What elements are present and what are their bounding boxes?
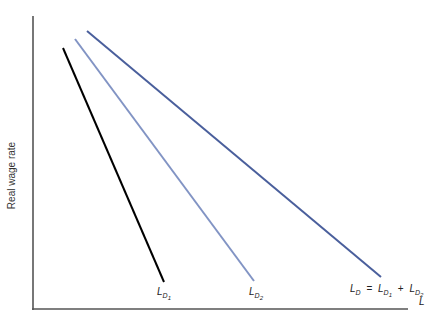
line-ld2 (75, 39, 254, 281)
chart-canvas (0, 0, 439, 328)
line-ld-sum (87, 31, 381, 277)
label-ld2: LD2 (249, 286, 263, 301)
y-axis-label: Real wage rate (6, 131, 17, 221)
label-ld-sum: LD = LD1 + LD2 (350, 283, 423, 298)
label-ld1: LD1 (157, 286, 171, 301)
